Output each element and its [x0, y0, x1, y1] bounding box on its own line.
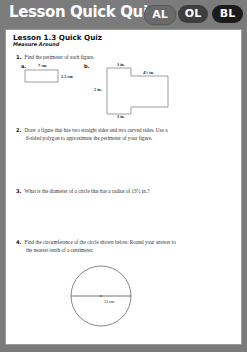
header-band: Lesson Quick Quiz (p. 39) AL OL BL: [0, 0, 247, 28]
level-badge-bl: BL: [212, 5, 243, 23]
title-text: Lesson Quick Quiz: [9, 3, 156, 21]
rectangle-figure: [25, 70, 58, 82]
level-badge-ol: OL: [178, 5, 208, 23]
quiz-card: Lesson 1.3 Quick Quiz Measure Around 1.F…: [5, 29, 242, 345]
circle-center-dot: [100, 295, 102, 297]
composite-figure: [107, 68, 168, 114]
figure-drawings: [6, 30, 241, 344]
level-badge-al: AL: [144, 5, 176, 25]
